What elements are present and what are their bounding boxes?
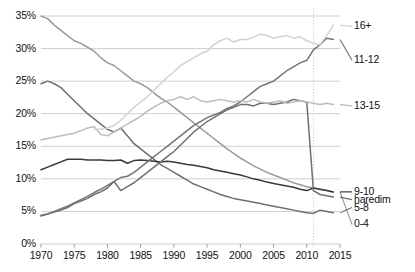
y-axis-tick-label-15%: 15% <box>0 139 36 151</box>
y-axis-tick-label-30%: 30% <box>0 42 36 54</box>
series-label-0-4: 0-4 <box>354 217 369 229</box>
y-axis-tick-label-35%: 35% <box>0 9 36 21</box>
series-leader-16+ <box>340 25 352 26</box>
series-label-13-15: 13-15 <box>354 99 380 111</box>
series-label-11-12: 11-12 <box>354 53 379 65</box>
y-axis-tick-label-20%: 20% <box>0 107 36 119</box>
y-axis-tick-label-5%: 5% <box>0 204 36 216</box>
y-axis-tick-label-0%: 0% <box>0 237 36 249</box>
chart-plot-area <box>0 0 415 272</box>
series-leader-11-12 <box>340 39 352 60</box>
y-axis-tick-label-10%: 10% <box>0 172 36 184</box>
y-axis-tick-label-25%: 25% <box>0 74 36 86</box>
series-line-11-12 <box>41 38 333 216</box>
series-line-9-10 <box>41 159 333 192</box>
series-leader-13-15 <box>340 105 352 106</box>
line-chart: 0%5%10%15%20%25%30%35%197019751980198519… <box>0 0 415 272</box>
series-label-16+: 16+ <box>354 19 371 31</box>
series-label-haredim: haredim <box>354 193 391 205</box>
series-line-0-4 <box>41 16 333 192</box>
x-axis-tick-label-2015: 2015 <box>320 249 360 261</box>
